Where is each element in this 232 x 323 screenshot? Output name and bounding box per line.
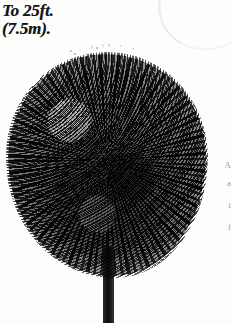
caption-line-imperial: To 25ft.	[2, 2, 54, 20]
canopy-grain-texture	[6, 52, 208, 278]
tree-illustration	[0, 0, 232, 323]
caption-line-metric: (7.5m).	[2, 20, 54, 38]
caption-block: To 25ft. (7.5m).	[2, 2, 54, 39]
illustration-page: To 25ft. (7.5m). A a t f	[0, 0, 232, 323]
